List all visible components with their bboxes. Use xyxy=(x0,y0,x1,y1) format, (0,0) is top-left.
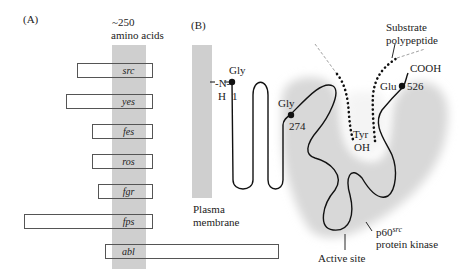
cooh-label: COOH xyxy=(410,62,441,74)
gly1-label: Gly xyxy=(229,64,246,76)
glu526-label: Glu xyxy=(380,80,397,92)
oh-label: OH xyxy=(354,141,370,153)
substrate-pointer xyxy=(392,44,395,58)
substrate-label-1: Substrate xyxy=(386,21,427,33)
n-terminus-label: -N- xyxy=(215,77,230,89)
kinase-label-superscript: src xyxy=(393,225,402,234)
substrate-label-2: polypeptide xyxy=(386,34,438,46)
kinase-label-main: p60 xyxy=(376,226,393,238)
tyr-label: Tyr xyxy=(353,128,368,140)
gly274-label: Gly xyxy=(278,97,295,109)
gly274-dot xyxy=(288,112,294,118)
n-h-label: H xyxy=(218,90,226,102)
kinase-label: p60src xyxy=(376,224,402,238)
gly274-number: 274 xyxy=(289,120,306,132)
kinase-label-2: protein kinase xyxy=(376,238,438,250)
gly1-number: 1 xyxy=(232,90,238,102)
glu526-number: 526 xyxy=(407,80,424,92)
glu526-dot xyxy=(399,83,405,89)
active-site-label: Active site xyxy=(318,252,365,264)
